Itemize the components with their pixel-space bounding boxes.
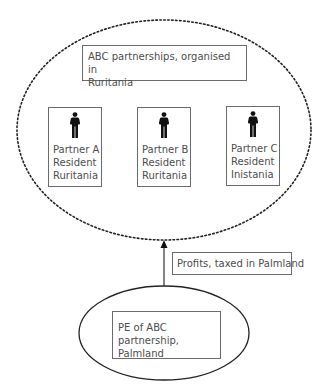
partnership-label-box: ABC partnerships, organised in Ruritania (82, 45, 247, 81)
person-icon (247, 111, 259, 137)
pe-label-line2: Palmland (118, 347, 215, 360)
profit-flow-label-box: Profits, taxed in Palmland (172, 252, 292, 275)
pe-label-box: PE of ABC partnership, Palmland (112, 311, 221, 359)
partner-b-country: Ruritania (142, 169, 186, 182)
partner-c-status: Resident (231, 155, 275, 168)
partner-c-name: Partner C (231, 142, 275, 155)
partner-a-box: Partner A Resident Ruritania (48, 107, 102, 187)
partner-c-box: Partner C Resident Inistania (226, 106, 280, 186)
partner-c-country: Inistania (231, 168, 275, 181)
partner-b-status: Resident (142, 156, 186, 169)
partner-b-name: Partner B (142, 143, 186, 156)
person-icon (69, 112, 81, 138)
partner-b-box: Partner B Resident Ruritania (137, 107, 191, 187)
arrow-head-icon (161, 240, 168, 248)
partnership-label-line1: ABC partnerships, organised in (88, 50, 241, 76)
partner-a-status: Resident (53, 156, 97, 169)
partner-a-country: Ruritania (53, 169, 97, 182)
diagram-canvas: ABC partnerships, organised in Ruritania… (0, 0, 325, 390)
partner-a-name: Partner A (53, 143, 97, 156)
partnership-label-line2: Ruritania (88, 76, 241, 89)
person-icon (158, 112, 170, 138)
profit-flow-label: Profits, taxed in Palmland (177, 257, 287, 270)
pe-label-line1: PE of ABC partnership, (118, 321, 215, 347)
